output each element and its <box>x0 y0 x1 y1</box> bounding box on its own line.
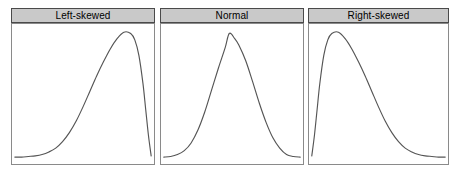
panel-title-left-skewed: Left-skewed <box>11 8 155 23</box>
panel-right-skewed: Right-skewed <box>308 8 449 165</box>
panel-title-right-skewed: Right-skewed <box>308 8 449 23</box>
panel-left-skewed: Left-skewed <box>11 8 155 165</box>
right-skewed-curve-svg <box>309 24 448 164</box>
left-skewed-curve <box>15 32 151 157</box>
normal-curve <box>164 33 300 157</box>
right-skewed-curve <box>312 32 445 157</box>
figure-canvas: Left-skewed Normal Right-skewed <box>0 0 460 179</box>
left-skewed-curve-svg <box>12 24 154 164</box>
plot-area-right-skewed <box>308 23 449 165</box>
normal-curve-svg <box>161 24 303 164</box>
plot-area-normal <box>160 23 304 165</box>
panel-title-normal: Normal <box>160 8 304 23</box>
panel-normal: Normal <box>160 8 304 165</box>
plot-area-left-skewed <box>11 23 155 165</box>
